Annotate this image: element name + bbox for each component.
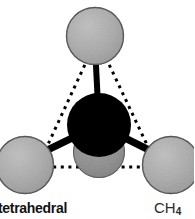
carbon-center-atom — [67, 93, 131, 157]
hydrogen-bottom-right-atom — [143, 137, 195, 194]
molecule-figure: tetrahedral CH4 — [0, 0, 194, 219]
molecule-diagram — [0, 0, 194, 219]
geometry-label: tetrahedral — [0, 199, 67, 217]
hydrogen-bottom-left-sphere — [0, 137, 54, 194]
formula-subscript: 4 — [176, 206, 182, 217]
hydrogen-top-sphere — [67, 8, 124, 65]
hydrogen-bottom-right-sphere — [143, 137, 195, 194]
hydrogen-top-atom — [67, 8, 124, 65]
hydrogen-bottom-left-atom — [0, 137, 54, 194]
formula-label: CH4 — [154, 199, 181, 219]
carbon-center-sphere — [67, 93, 131, 157]
figure-captions: tetrahedral CH4 — [0, 199, 194, 219]
formula-symbol: CH — [154, 199, 176, 216]
